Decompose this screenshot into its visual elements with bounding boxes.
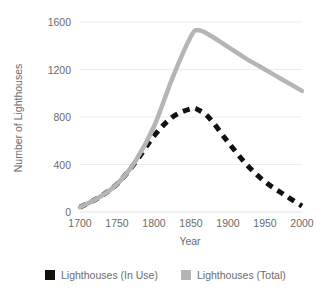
chart-canvas: 040080012001600 170017501800185019001950… — [0, 0, 334, 298]
lighthouses-line-chart: 040080012001600 170017501800185019001950… — [0, 0, 334, 298]
y-tick-label-400: 400 — [53, 159, 71, 171]
series-line-0 — [80, 108, 302, 207]
x-axis-tick-labels: 1700175018001850190019502000 — [68, 217, 314, 229]
x-tick-label-1900: 1900 — [216, 217, 240, 229]
x-axis-title: Year — [179, 235, 201, 247]
legend-swatch-1 — [181, 270, 191, 280]
x-tick-label-1850: 1850 — [179, 217, 203, 229]
y-axis-title: Number of Lighthouses — [12, 64, 24, 173]
data-series-group — [80, 30, 302, 207]
chart-legend: Lighthouses (In Use)Lighthouses (Total) — [45, 269, 286, 281]
x-tick-label-1750: 1750 — [105, 217, 129, 229]
y-axis-tick-labels: 040080012001600 — [48, 16, 72, 218]
legend-swatch-0 — [45, 270, 55, 280]
y-tick-label-1600: 1600 — [48, 16, 72, 28]
y-tick-label-800: 800 — [53, 111, 71, 123]
series-line-1 — [80, 30, 302, 207]
x-tick-label-2000: 2000 — [290, 217, 314, 229]
y-tick-label-1200: 1200 — [48, 64, 72, 76]
legend-label-0: Lighthouses (In Use) — [61, 269, 158, 281]
legend-label-1: Lighthouses (Total) — [197, 269, 286, 281]
x-tick-label-1950: 1950 — [253, 217, 277, 229]
x-tick-label-1700: 1700 — [68, 217, 92, 229]
x-tick-label-1800: 1800 — [142, 217, 166, 229]
